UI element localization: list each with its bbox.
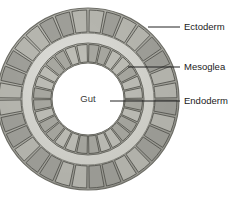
diagram-canvas: Ectoderm Mesoglea Endoderm Gut — [0, 0, 245, 200]
gut-label: Gut — [80, 93, 96, 104]
endoderm-label: Endoderm — [184, 95, 228, 106]
cross-section-diagram: Ectoderm Mesoglea Endoderm Gut — [0, 0, 245, 200]
mesoglea-label: Mesoglea — [184, 61, 226, 72]
ectoderm-label: Ectoderm — [184, 21, 225, 32]
